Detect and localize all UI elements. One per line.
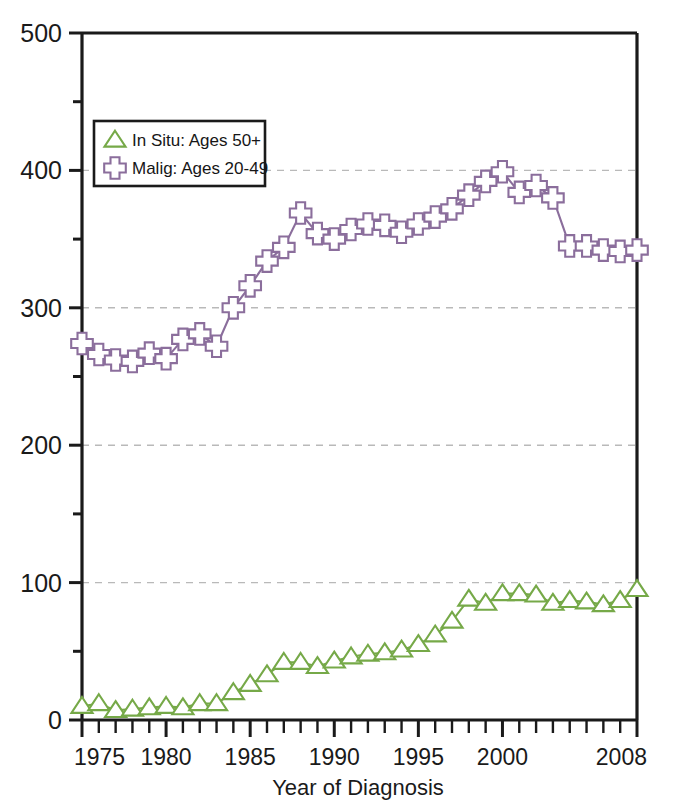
x-axis-tick-label: 1975: [74, 744, 125, 770]
x-axis-tick-label: 2000: [477, 744, 528, 770]
cross-marker-icon: [239, 275, 261, 297]
y-axis-tick-label: 500: [20, 19, 62, 47]
cross-marker-icon: [256, 250, 278, 272]
x-axis-tick-label: 1985: [225, 744, 276, 770]
x-axis-tick-label: 1990: [309, 744, 360, 770]
x-axis-title: Year of Diagnosis: [272, 775, 444, 800]
triangle-marker-icon: [509, 584, 530, 600]
x-axis-tick-label: 1980: [141, 744, 192, 770]
triangle-marker-icon: [559, 591, 580, 607]
x-axis-tick-label: 2008: [596, 744, 647, 770]
cross-marker-icon: [273, 237, 295, 259]
y-axis-tick-label: 100: [20, 569, 62, 597]
data-series-layer: [71, 161, 648, 717]
triangle-marker-icon: [290, 653, 311, 669]
cross-marker-icon: [290, 202, 312, 224]
y-axis-tick-label: 0: [48, 706, 62, 734]
y-axis-tick-label: 300: [20, 294, 62, 322]
y-axis-tick-label: 400: [20, 156, 62, 184]
x-axis-tick-label: 1995: [393, 744, 444, 770]
chart-container: 0100200300400500 19751980198519901995200…: [0, 0, 685, 809]
x-axis-tick-labels: 1975198019851990199520002008: [74, 744, 647, 770]
data-series: [71, 161, 648, 372]
line-chart: 0100200300400500 19751980198519901995200…: [0, 0, 685, 809]
triangle-marker-icon: [88, 694, 109, 710]
cross-marker-icon: [626, 239, 648, 261]
y-axis-tick-label: 200: [20, 431, 62, 459]
y-axis-tick-labels: 0100200300400500: [20, 19, 62, 734]
cross-marker-icon: [458, 184, 480, 206]
legend-label: Malig: Ages 20-49: [132, 159, 268, 178]
triangle-marker-icon: [156, 697, 177, 713]
triangle-marker-icon: [240, 675, 261, 691]
data-series: [71, 580, 647, 717]
x-axis-ticks: [82, 720, 637, 737]
chart-legend: In Situ: Ages 50+Malig: Ages 20-49: [94, 121, 268, 186]
triangle-marker-icon: [441, 612, 462, 628]
triangle-marker-icon: [458, 590, 479, 606]
triangle-marker-icon: [408, 635, 429, 651]
legend-label: In Situ: Ages 50+: [132, 131, 261, 150]
y-axis-ticks: [69, 33, 82, 720]
cross-marker-icon: [223, 297, 245, 319]
